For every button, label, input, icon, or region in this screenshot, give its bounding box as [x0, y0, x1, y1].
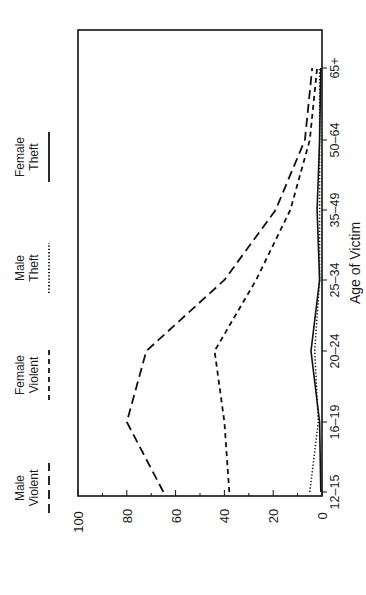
legend-item: MaleViolent — [13, 463, 49, 513]
svg-text:Violent: Violent — [27, 469, 41, 506]
legend-item: FemaleTheft — [13, 132, 49, 182]
svg-text:Theft: Theft — [27, 143, 41, 171]
category-tick-label: 35–49 — [328, 193, 342, 228]
legend-item: MaleTheft — [13, 243, 49, 293]
svg-text:Theft: Theft — [27, 254, 41, 282]
svg-text:Male: Male — [13, 475, 27, 501]
value-tick-label: 80 — [120, 509, 135, 523]
svg-text:Female: Female — [13, 137, 27, 177]
series-male-violent — [127, 68, 312, 492]
svg-text:Female: Female — [13, 355, 27, 395]
series-male-theft — [310, 68, 320, 492]
category-tick-label: 50–64 — [328, 123, 342, 158]
value-tick-label: 60 — [169, 509, 184, 523]
category-tick-label: 25–34 — [328, 263, 342, 298]
svg-text:Violent: Violent — [27, 356, 41, 393]
value-tick-label: 20 — [266, 509, 281, 523]
value-tick-label: 0 — [315, 512, 330, 519]
series-female-violent — [215, 68, 318, 492]
value-tick-label: 40 — [217, 509, 232, 523]
plot-frame — [78, 30, 322, 496]
category-tick-label: 20–24 — [328, 334, 342, 369]
legend: MaleViolentFemaleViolentMaleTheftFemaleT… — [13, 132, 49, 513]
series-lines — [127, 68, 321, 492]
category-axis-ticks: 12–1516–1920–2425–3435–4950–6465+ — [322, 57, 342, 509]
svg-text:Male: Male — [13, 255, 27, 281]
category-tick-label: 16–19 — [328, 405, 342, 440]
legend-item: FemaleViolent — [13, 350, 49, 400]
value-tick-label: 100 — [71, 511, 86, 533]
series-female-theft — [311, 68, 321, 492]
category-tick-label: 65+ — [328, 57, 342, 78]
category-tick-label: 12–15 — [328, 475, 342, 510]
line-chart: 020406080100 12–1516–1920–2425–3435–4950… — [0, 0, 366, 595]
x-axis-label: Age of Victim — [347, 222, 363, 304]
